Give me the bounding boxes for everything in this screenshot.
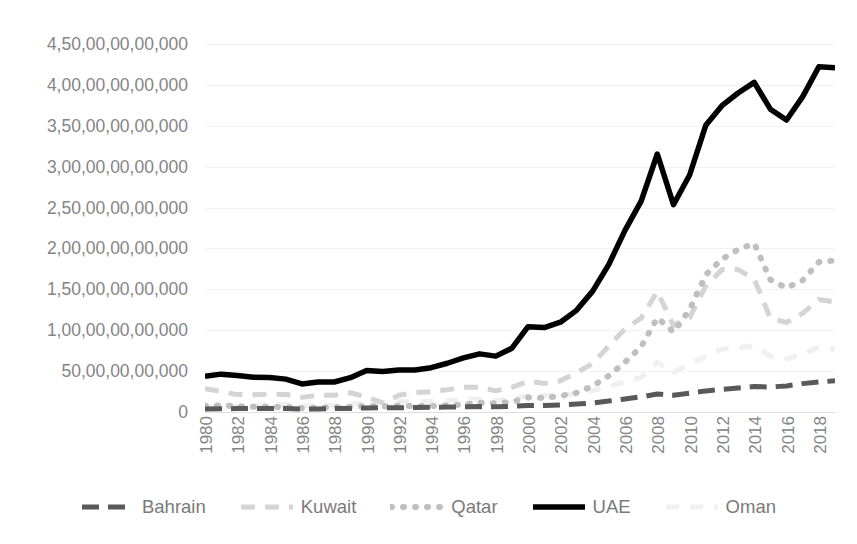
legend-label: UAE: [593, 496, 631, 518]
y-axis-tick-label: 1,50,00,00,00,000: [47, 279, 188, 300]
x-axis-tick-label: 1990: [359, 416, 379, 454]
legend-item-qatar[interactable]: Qatar: [390, 496, 497, 518]
y-axis-tick-label: 2,50,00,00,00,000: [47, 197, 188, 218]
x-axis-tick-label: 1980: [197, 416, 217, 454]
y-axis-tick-label: 2,00,00,00,00,000: [47, 238, 188, 259]
gridline: [205, 412, 835, 413]
series-line-uae: [205, 67, 835, 384]
x-axis-tick-label: 1984: [262, 416, 282, 454]
x-axis-tick-label: 1992: [391, 416, 411, 454]
legend-label: Bahrain: [142, 496, 206, 518]
x-axis-tick-label: 2004: [585, 416, 605, 454]
legend-item-bahrain[interactable]: Bahrain: [81, 496, 206, 518]
x-axis-tick-label: 1996: [455, 416, 475, 454]
y-axis: 4,50,00,00,00,0004,00,00,00,00,0003,50,0…: [0, 0, 196, 440]
legend-swatch-uae-icon: [532, 499, 586, 515]
x-axis-tick-label: 2010: [682, 416, 702, 454]
y-axis-tick-label: 4,50,00,00,00,000: [47, 34, 188, 55]
x-axis-tick-label: 1988: [326, 416, 346, 454]
legend-swatch-qatar-icon: [390, 499, 444, 515]
x-axis-tick-label: 2002: [552, 416, 572, 454]
chart-legend: BahrainKuwaitQatarUAEOman: [0, 487, 857, 527]
line-chart: 4,50,00,00,00,0004,00,00,00,00,0003,50,0…: [0, 0, 857, 544]
legend-label: Oman: [726, 496, 776, 518]
x-axis-tick-label: 2000: [520, 416, 540, 454]
y-axis-tick-label: 3,50,00,00,00,000: [47, 115, 188, 136]
legend-item-uae[interactable]: UAE: [532, 496, 631, 518]
y-axis-tick-label: 3,00,00,00,00,000: [47, 156, 188, 177]
y-axis-tick-label: 4,00,00,00,00,000: [47, 74, 188, 95]
legend-swatch-oman-icon: [665, 499, 719, 515]
x-axis-tick-label: 2012: [714, 416, 734, 454]
x-axis-tick-label: 1998: [488, 416, 508, 454]
x-axis-tick-label: 1994: [423, 416, 443, 454]
legend-item-kuwait[interactable]: Kuwait: [240, 496, 357, 518]
legend-label: Qatar: [451, 496, 497, 518]
x-axis: 1980198219841986198819901992199419961998…: [205, 414, 835, 484]
x-axis-tick-label: 2006: [617, 416, 637, 454]
y-axis-tick-label: 50,00,00,00,000: [61, 361, 188, 382]
legend-item-oman[interactable]: Oman: [665, 496, 776, 518]
x-axis-tick-label: 2008: [649, 416, 669, 454]
plot-area: [205, 44, 835, 412]
x-axis-tick-label: 2016: [779, 416, 799, 454]
series-line-oman: [205, 346, 835, 407]
series-layer: [205, 44, 835, 412]
y-axis-tick-label: 0: [178, 402, 188, 423]
x-axis-tick-label: 2018: [811, 416, 831, 454]
legend-swatch-kuwait-icon: [240, 499, 294, 515]
x-axis-tick-label: 1986: [294, 416, 314, 454]
x-axis-tick-label: 1982: [229, 416, 249, 454]
legend-label: Kuwait: [301, 496, 357, 518]
legend-swatch-bahrain-icon: [81, 499, 135, 515]
x-axis-tick-label: 2014: [746, 416, 766, 454]
y-axis-tick-label: 1,00,00,00,00,000: [47, 320, 188, 341]
